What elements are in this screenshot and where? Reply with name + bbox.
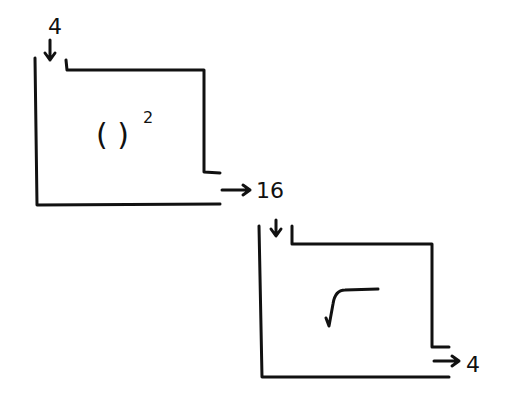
diagram-canvas: 4 ( ) 2 16 4 — [0, 0, 514, 409]
output-arrow-icon — [222, 185, 250, 195]
machine1-operation: ( ) — [96, 117, 129, 152]
machine2-output-label: 4 — [466, 352, 480, 377]
machine2-left-bottom-wall — [259, 226, 449, 377]
machine1-output-label: 16 — [256, 178, 284, 203]
machine1-exponent: 2 — [143, 108, 153, 127]
machine1-input-label: 4 — [48, 14, 62, 39]
machine-sqrt: 4 — [259, 220, 480, 377]
machine-square: 4 ( ) 2 16 — [35, 14, 284, 205]
input-arrow-icon — [271, 220, 281, 236]
machine2-top-right-wall — [292, 226, 449, 347]
sqrt-icon — [326, 289, 378, 326]
input-arrow-icon — [45, 40, 55, 60]
output-arrow-icon — [434, 356, 459, 366]
